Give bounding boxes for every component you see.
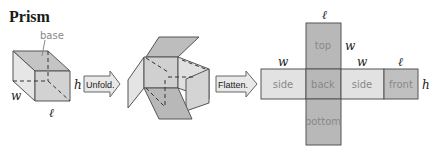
l-label: ℓ xyxy=(49,106,54,120)
face-front: front xyxy=(389,79,413,90)
net-w-top: w xyxy=(345,39,356,53)
w-label: w xyxy=(11,89,22,103)
unfold-arrow: Unfold. xyxy=(84,71,120,97)
net-l-top: ℓ xyxy=(322,8,327,22)
unfold-label: Unfold. xyxy=(86,80,115,90)
face-back: back xyxy=(311,79,335,90)
face-side-left: side xyxy=(273,79,294,90)
prism-diagram: base w h ℓ Unfold. Flatten. top side bac… xyxy=(0,0,434,151)
base-label: base xyxy=(40,30,64,41)
prism-box xyxy=(13,40,70,101)
net-h: h xyxy=(422,78,430,92)
face-bottom: bottom xyxy=(305,116,341,127)
net-w-left: w xyxy=(278,55,289,69)
face-top: top xyxy=(315,40,331,51)
unfolded-box xyxy=(128,37,209,119)
net-l-front: ℓ xyxy=(398,55,403,69)
flatten-arrow: Flatten. xyxy=(216,71,257,97)
face-side-right: side xyxy=(352,79,373,90)
flatten-label: Flatten. xyxy=(218,80,248,90)
net-w-mid: w xyxy=(357,55,368,69)
h-label: h xyxy=(74,78,82,92)
